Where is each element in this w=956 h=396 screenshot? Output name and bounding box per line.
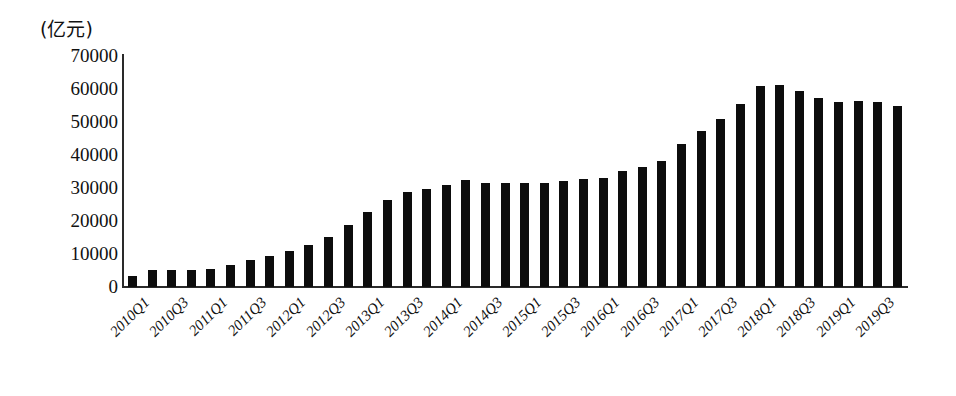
bar — [206, 269, 215, 287]
bar — [873, 102, 882, 287]
bar — [677, 144, 686, 287]
y-tick-label: 70000 — [8, 46, 118, 65]
bar-chart: (亿元) 70000600005000040000300002000010000… — [0, 0, 956, 396]
y-tick-label: 30000 — [8, 178, 118, 197]
bar — [422, 189, 431, 287]
bar — [285, 251, 294, 287]
x-tick-label: 2016Q1 — [577, 294, 623, 340]
bar — [442, 185, 451, 287]
x-axis-tick-labels: 2010Q12010Q32011Q12011Q32012Q12012Q32013… — [122, 288, 908, 396]
bar — [520, 183, 529, 287]
x-tick-label: 2013Q1 — [342, 294, 388, 340]
bar — [599, 178, 608, 287]
bar — [716, 119, 725, 287]
bar-series — [122, 56, 906, 287]
bar — [246, 260, 255, 287]
x-tick-label: 2015Q3 — [538, 294, 584, 340]
y-tick-label: 40000 — [8, 145, 118, 164]
x-tick-label: 2019Q1 — [812, 294, 858, 340]
bar — [383, 200, 392, 287]
bar — [579, 179, 588, 287]
x-tick-label: 2017Q1 — [656, 294, 702, 340]
bar — [657, 161, 666, 287]
x-tick-label: 2010Q3 — [146, 294, 192, 340]
bar — [403, 192, 412, 287]
bar — [324, 237, 333, 287]
y-tick-label: 10000 — [8, 244, 118, 263]
bar — [638, 167, 647, 287]
bar — [795, 91, 804, 287]
x-tick-label: 2017Q3 — [695, 294, 741, 340]
bar — [814, 98, 823, 287]
bar — [775, 85, 784, 287]
plot-area — [122, 56, 906, 287]
bar — [344, 225, 353, 287]
x-tick-label: 2011Q3 — [225, 294, 270, 339]
bar — [756, 86, 765, 287]
x-tick-label: 2014Q1 — [420, 294, 466, 340]
bar — [854, 101, 863, 287]
bar — [834, 102, 843, 287]
x-tick-label: 2019Q3 — [852, 294, 898, 340]
bar — [893, 106, 902, 287]
bar — [187, 270, 196, 287]
y-tick-label: 60000 — [8, 79, 118, 98]
bar — [265, 256, 274, 287]
bar — [304, 245, 313, 287]
x-tick-label: 2016Q3 — [616, 294, 662, 340]
bar — [697, 131, 706, 287]
y-tick-label: 0 — [8, 277, 118, 296]
x-tick-label: 2018Q3 — [773, 294, 819, 340]
bar — [736, 104, 745, 287]
bar — [481, 183, 490, 287]
x-tick-label: 2013Q3 — [381, 294, 427, 340]
x-tick-label: 2011Q1 — [186, 294, 231, 339]
bar — [226, 265, 235, 287]
bar — [363, 212, 372, 287]
y-tick-label: 20000 — [8, 211, 118, 230]
x-tick-label: 2012Q1 — [263, 294, 309, 340]
y-axis-tick-labels: 700006000050000400003000020000100000 — [0, 0, 118, 396]
bar — [501, 183, 510, 287]
y-tick-label: 50000 — [8, 112, 118, 131]
bar — [148, 270, 157, 287]
bar — [167, 270, 176, 287]
bar — [128, 276, 137, 287]
x-tick-label: 2014Q3 — [459, 294, 505, 340]
bar — [540, 183, 549, 287]
x-tick-label: 2012Q3 — [302, 294, 348, 340]
bar — [461, 180, 470, 287]
x-tick-label: 2015Q1 — [499, 294, 545, 340]
bar — [618, 171, 627, 287]
bar — [559, 181, 568, 287]
x-tick-label: 2018Q1 — [734, 294, 780, 340]
